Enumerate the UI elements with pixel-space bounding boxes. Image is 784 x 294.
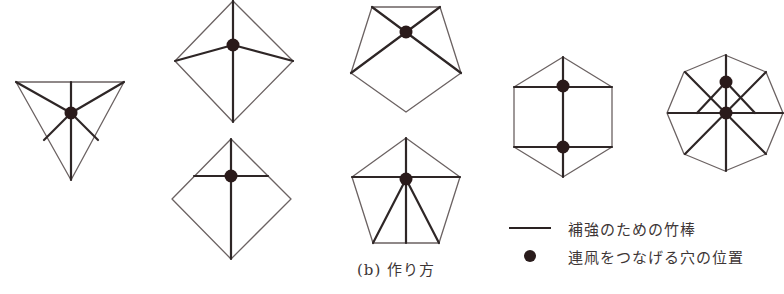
diamond-kite-lower xyxy=(172,139,291,259)
legend-item-stick: 補強のための竹棒 xyxy=(508,214,744,242)
legend-label: 連凧をつなげる穴の位置 xyxy=(568,246,744,267)
legend: 補強のための竹棒 連凧をつなげる穴の位置 xyxy=(508,214,744,270)
hole-dot xyxy=(400,26,413,39)
line-icon xyxy=(508,227,552,229)
triangle-kite xyxy=(16,82,124,180)
legend-label: 補強のための竹棒 xyxy=(568,218,696,239)
figure-caption: (b) 作り方 xyxy=(357,258,435,279)
hole-dot xyxy=(720,76,733,89)
diamond-kite-upper xyxy=(175,1,293,122)
hexagon-kite xyxy=(514,57,612,177)
hole-dot xyxy=(65,107,78,120)
dot-icon xyxy=(508,250,552,262)
octagon-kite xyxy=(667,55,783,171)
legend-item-hole: 連凧をつなげる穴の位置 xyxy=(508,242,744,270)
pentagon-kite-lower xyxy=(352,138,460,243)
hole-dot xyxy=(557,141,570,154)
pentagon-kite-upper xyxy=(351,7,461,112)
hole-dot xyxy=(225,170,238,183)
hole-dot xyxy=(720,107,733,120)
hole-dot xyxy=(227,39,240,52)
hole-dot xyxy=(400,173,413,186)
hole-dot xyxy=(557,80,570,93)
